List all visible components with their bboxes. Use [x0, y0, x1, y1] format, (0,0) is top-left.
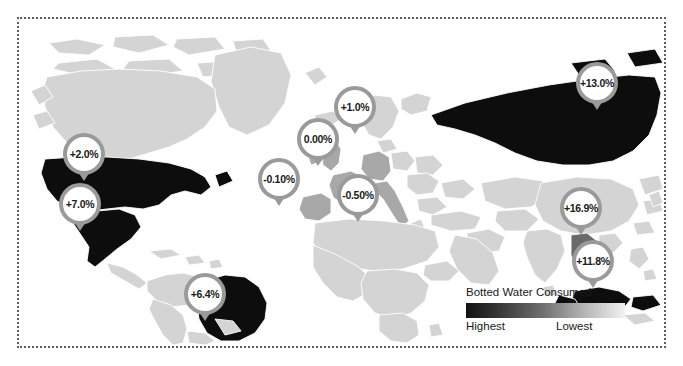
marker-head: -0.50% — [337, 174, 379, 216]
marker-value-label: -0.10% — [263, 174, 294, 185]
marker-brazil[interactable]: +6.4% — [184, 273, 226, 315]
legend-gradient-bar — [466, 303, 625, 318]
marker-value-label: -0.50% — [342, 190, 373, 201]
marker-value-label: +1.0% — [341, 102, 370, 113]
marker-head: +6.4% — [184, 273, 226, 315]
marker-value-label: +7.0% — [66, 199, 95, 210]
marker-value-label: 0.00% — [304, 134, 332, 145]
marker-head: +1.0% — [334, 86, 376, 128]
marker-united-states[interactable]: +2.0% — [63, 133, 105, 175]
marker-value-label: +6.4% — [191, 289, 220, 300]
marker-value-label: +16.9% — [564, 203, 598, 214]
marker-head: +16.9% — [560, 187, 602, 229]
marker-italy[interactable]: -0.50% — [337, 174, 379, 216]
legend-end-labels: Highest Lowest — [466, 320, 631, 336]
marker-head: +13.0% — [576, 62, 618, 104]
marker-mexico[interactable]: +7.0% — [59, 183, 101, 225]
legend-title: Botted Water Consumed — [466, 286, 631, 299]
marker-head: -0.10% — [258, 158, 300, 200]
marker-value-label: +11.8% — [576, 256, 610, 267]
legend-lowest-label: Lowest — [556, 320, 592, 332]
marker-germany[interactable]: +1.0% — [334, 86, 376, 128]
marker-spain[interactable]: -0.10% — [258, 158, 300, 200]
marker-head: +2.0% — [63, 133, 105, 175]
marker-value-label: +2.0% — [70, 149, 99, 160]
marker-head: +7.0% — [59, 183, 101, 225]
marker-indonesia[interactable]: +11.8% — [572, 240, 614, 282]
marker-united-kingdom[interactable]: 0.00% — [297, 118, 339, 160]
map-infographic: .land{fill:#d4d4d4;stroke:#ffffff;stroke… — [0, 0, 683, 366]
marker-head: 0.00% — [297, 118, 339, 160]
map-legend: Botted Water Consumed Highest Lowest — [466, 286, 631, 336]
legend-highest-label: Highest — [466, 320, 505, 332]
marker-russia[interactable]: +13.0% — [576, 62, 618, 104]
marker-head: +11.8% — [572, 240, 614, 282]
marker-thailand[interactable]: +16.9% — [560, 187, 602, 229]
marker-value-label: +13.0% — [580, 78, 614, 89]
